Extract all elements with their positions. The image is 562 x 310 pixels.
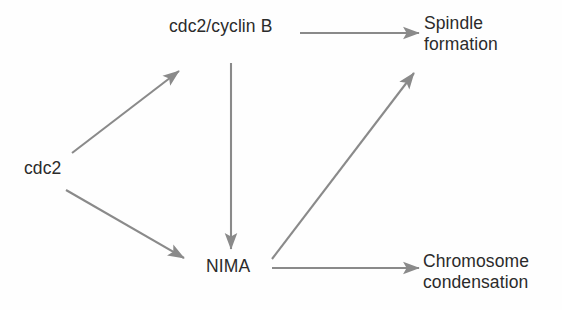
node-label-cdc2-cyclin-b: cdc2/cyclin B <box>169 16 272 37</box>
node-label-nima: NIMA <box>206 256 250 277</box>
node-label-spindle-formation: Spindle formation <box>424 13 498 55</box>
arrow-cdc2-to-nima <box>66 190 184 258</box>
pathway-diagram: cdc2/cyclin B Spindle formation cdc2 NIM… <box>0 0 562 310</box>
node-label-cdc2: cdc2 <box>24 158 61 179</box>
node-label-chromosome-condensation: Chromosome condensation <box>423 251 529 293</box>
arrow-nima-to-spindle-formation <box>272 73 414 259</box>
arrow-cdc2-to-cdc2-cyclin-b <box>72 71 179 153</box>
